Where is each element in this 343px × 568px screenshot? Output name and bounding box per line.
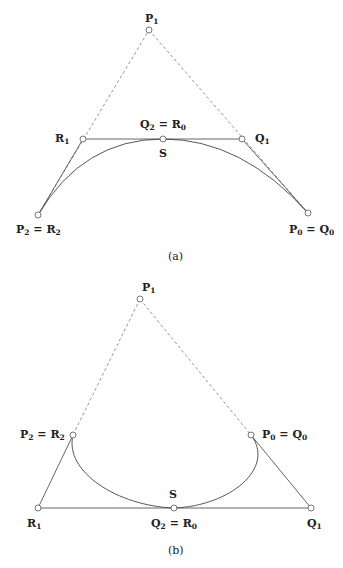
point-p1 (137, 296, 143, 302)
label-p1: P1 (145, 12, 159, 26)
point-r1 (80, 136, 86, 142)
label-q2-eq-r0: Q2 = R0 (151, 517, 197, 531)
point-p2-r2 (35, 212, 41, 218)
control-polygon-dashed-left (73, 299, 140, 435)
figure-a: P1 R1 Q2 = R0 Q1 S P2 = R2 P0 = Q0 (a) (16, 12, 334, 263)
label-r1: R1 (55, 132, 69, 146)
label-s: S (159, 147, 167, 160)
label-p2-eq-r2: P2 = R2 (20, 428, 65, 442)
point-q2-r0 (171, 505, 177, 511)
label-p0-eq-q0: P0 = Q0 (262, 428, 307, 442)
point-q1 (308, 505, 314, 511)
point-q2-r0 (160, 136, 166, 142)
label-q1: Q1 (255, 132, 270, 146)
label-p2-eq-r2: P2 = R2 (16, 223, 61, 237)
caption-b: (b) (168, 544, 184, 557)
label-p0-eq-q0: P0 = Q0 (289, 223, 334, 237)
point-p0-q0 (248, 432, 254, 438)
point-p1 (146, 27, 152, 33)
caption-a: (a) (168, 250, 183, 263)
bezier-curve-b (72, 435, 258, 508)
bezier-curve-a (38, 139, 308, 215)
segment-p2-r1 (38, 435, 73, 508)
label-p1: P1 (142, 281, 156, 295)
control-polygon-dashed-right (140, 299, 251, 435)
label-r1: R1 (27, 517, 41, 531)
figure-b: P1 P2 = R2 P0 = Q0 S R1 Q2 = R0 Q1 (b) (20, 281, 322, 557)
label-q2-eq-r0: Q2 = R0 (140, 118, 186, 132)
segment-q1-p0 (251, 435, 311, 508)
point-p2-r2 (70, 432, 76, 438)
label-q1: Q1 (307, 517, 322, 531)
label-s: S (169, 488, 177, 501)
point-p0-q0 (305, 210, 311, 216)
point-q1 (239, 136, 245, 142)
point-r1 (35, 505, 41, 511)
bezier-subdivision-figure: P1 R1 Q2 = R0 Q1 S P2 = R2 P0 = Q0 (a) P… (0, 0, 343, 568)
